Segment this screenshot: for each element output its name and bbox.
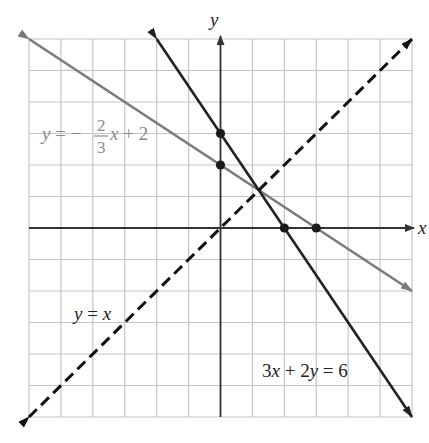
intercept-point (216, 129, 225, 138)
label-gray-rhs: + 2 (118, 123, 148, 144)
intercept-point (280, 223, 289, 232)
label-gray-line: y = − 2 3 x + 2 (40, 116, 148, 157)
label-gray-numerator: 2 (97, 116, 106, 135)
label-gray-eq: = − (50, 123, 81, 144)
svg-text:y = −: y = − (40, 123, 81, 144)
coordinate-plane: x y y = − 2 3 x + 2 y = x 3x + 2y = 6 (0, 0, 429, 443)
label-dashed-line: y = x (72, 303, 112, 324)
x-axis-label: x (417, 217, 427, 238)
label-gray-denominator: 3 (97, 138, 106, 157)
label-gray-lhs: y (40, 123, 51, 144)
intercept-points (216, 129, 321, 233)
svg-text:x + 2: x + 2 (109, 123, 148, 144)
intercept-point (312, 223, 321, 232)
intercept-point (216, 160, 225, 169)
label-black-line: 3x + 2y = 6 (262, 360, 348, 381)
y-axis-label: y (208, 9, 219, 30)
